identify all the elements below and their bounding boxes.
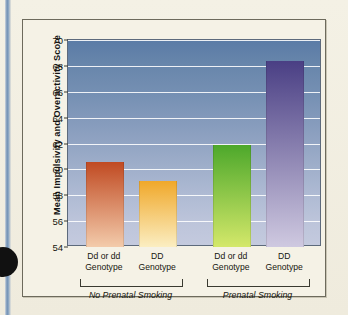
category-label-line2: Genotype	[117, 262, 197, 273]
group-bracket-1	[207, 279, 310, 287]
bar-1	[139, 181, 177, 247]
plot-area: 545658606264666870	[67, 39, 321, 246]
category-label-1: DDGenotype	[117, 251, 197, 272]
group-label-0: No Prenatal Smoking	[80, 290, 181, 300]
y-tick-label-64: 64	[52, 112, 63, 123]
bar-3	[266, 61, 304, 247]
bar-0	[86, 162, 124, 247]
y-tick-mark-62	[64, 143, 68, 144]
y-tick-mark-70	[64, 40, 68, 41]
group-bracket-0	[80, 279, 183, 287]
y-tick-label-70: 70	[52, 35, 63, 46]
gridline-70	[68, 40, 320, 41]
y-tick-mark-60	[64, 169, 68, 170]
y-tick-mark-68	[64, 65, 68, 66]
bar-2	[213, 145, 251, 247]
y-tick-mark-58	[64, 195, 68, 196]
group-label-1: Prenatal Smoking	[207, 290, 308, 300]
y-tick-label-62: 62	[52, 138, 63, 149]
y-tick-label-66: 66	[52, 86, 63, 97]
category-label-line1: DD	[244, 251, 324, 262]
category-label-line1: DD	[117, 251, 197, 262]
page-background: Mean Impulsivity and Overactivity Score …	[0, 0, 348, 315]
y-tick-label-58: 58	[52, 190, 63, 201]
y-tick-mark-56	[64, 221, 68, 222]
y-tick-mark-64	[64, 117, 68, 118]
y-tick-label-56: 56	[52, 216, 63, 227]
y-tick-mark-54	[64, 247, 68, 248]
y-tick-label-68: 68	[52, 60, 63, 71]
y-tick-mark-66	[64, 91, 68, 92]
category-label-line2: Genotype	[244, 262, 324, 273]
left-edge-dot	[0, 247, 18, 277]
figure-panel: Mean Impulsivity and Overactivity Score …	[22, 19, 326, 297]
y-tick-label-54: 54	[52, 242, 63, 253]
y-tick-label-60: 60	[52, 164, 63, 175]
category-label-3: DDGenotype	[244, 251, 324, 272]
